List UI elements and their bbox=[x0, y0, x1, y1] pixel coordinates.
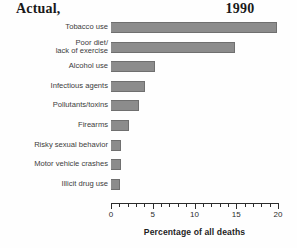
chart-category-row: Risky sexual behavior bbox=[0, 139, 297, 154]
chart-bar bbox=[111, 120, 129, 131]
x-tick-minor bbox=[186, 203, 187, 207]
x-tick-minor bbox=[245, 203, 246, 207]
x-tick-major bbox=[278, 203, 279, 209]
plot-area: Tobacco usePoor diet/ lack of exerciseAl… bbox=[0, 19, 297, 205]
chart-title-left: Actual, bbox=[16, 1, 61, 17]
x-tick-major bbox=[195, 203, 196, 209]
chart-category-row: Illicit drug use bbox=[0, 178, 297, 193]
x-tick-minor bbox=[261, 203, 262, 207]
x-tick-minor bbox=[211, 203, 212, 207]
chart-category-row: Firearms bbox=[0, 119, 297, 134]
x-tick-label: 0 bbox=[99, 210, 123, 219]
x-tick-label: 15 bbox=[224, 210, 248, 219]
x-tick-minor bbox=[253, 203, 254, 207]
x-tick-minor bbox=[203, 203, 204, 207]
x-tick-minor bbox=[169, 203, 170, 207]
chart-category-row: Infectious agents bbox=[0, 80, 297, 95]
chart-bar bbox=[111, 100, 139, 111]
category-label: Motor vehicle crashes bbox=[0, 160, 111, 168]
x-tick-minor bbox=[220, 203, 221, 207]
chart-bar bbox=[111, 159, 121, 170]
chart-category-row: Poor diet/ lack of exercise bbox=[0, 41, 297, 56]
category-label: Risky sexual behavior bbox=[0, 141, 111, 149]
x-tick-minor bbox=[144, 203, 145, 207]
x-tick-minor bbox=[228, 203, 229, 207]
category-label: Pollutants/toxins bbox=[0, 101, 111, 109]
chart-bar bbox=[111, 81, 145, 92]
x-tick-minor bbox=[128, 203, 129, 207]
x-tick-minor bbox=[136, 203, 137, 207]
chart-title-row: Actual, 1990 bbox=[0, 1, 297, 19]
x-tick-label: 5 bbox=[141, 210, 165, 219]
chart-bar bbox=[111, 61, 155, 72]
x-tick-minor bbox=[178, 203, 179, 207]
chart-bar bbox=[111, 22, 277, 33]
x-tick-label: 20 bbox=[266, 210, 290, 219]
chart-category-row: Alcohol use bbox=[0, 60, 297, 75]
chart-figure: Actual, 1990 Tobacco usePoor diet/ lack … bbox=[0, 0, 297, 248]
category-label: Tobacco use bbox=[0, 23, 111, 31]
chart-bar bbox=[111, 140, 121, 151]
category-label: Infectious agents bbox=[0, 82, 111, 90]
category-label: Poor diet/ lack of exercise bbox=[0, 39, 111, 56]
x-tick-major bbox=[153, 203, 154, 209]
x-tick-major bbox=[111, 203, 112, 209]
chart-category-row: Motor vehicle crashes bbox=[0, 158, 297, 173]
chart-bar bbox=[111, 42, 235, 53]
category-label: Alcohol use bbox=[0, 62, 111, 70]
x-tick-minor bbox=[270, 203, 271, 207]
chart-category-row: Pollutants/toxins bbox=[0, 99, 297, 114]
x-tick-minor bbox=[119, 203, 120, 207]
x-tick-major bbox=[236, 203, 237, 209]
category-label: Firearms bbox=[0, 121, 111, 129]
chart-bar bbox=[111, 179, 120, 190]
chart-title-year: 1990 bbox=[205, 1, 275, 17]
chart-category-row: Tobacco use bbox=[0, 21, 297, 36]
x-axis-title: Percentage of all deaths bbox=[111, 227, 278, 237]
category-label: Illicit drug use bbox=[0, 180, 111, 188]
x-tick-minor bbox=[161, 203, 162, 207]
x-tick-label: 10 bbox=[183, 210, 207, 219]
